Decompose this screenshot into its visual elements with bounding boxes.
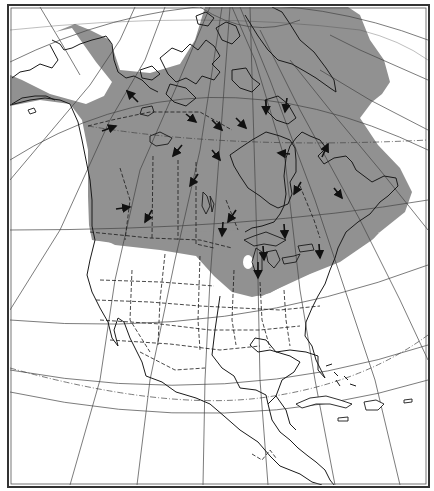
arrow-icon: [319, 244, 320, 258]
range-map: [0, 0, 434, 491]
bahamas: [326, 364, 356, 386]
hispaniola: [364, 400, 384, 410]
range-gap: [243, 255, 253, 269]
arrow-icon: [278, 153, 290, 154]
jamaica: [338, 417, 348, 421]
puerto-rico: [404, 399, 412, 403]
arrow-icon: [284, 224, 285, 238]
cuba: [296, 396, 352, 408]
arrow-icon: [222, 222, 223, 236]
arrow-icon: [263, 246, 264, 260]
